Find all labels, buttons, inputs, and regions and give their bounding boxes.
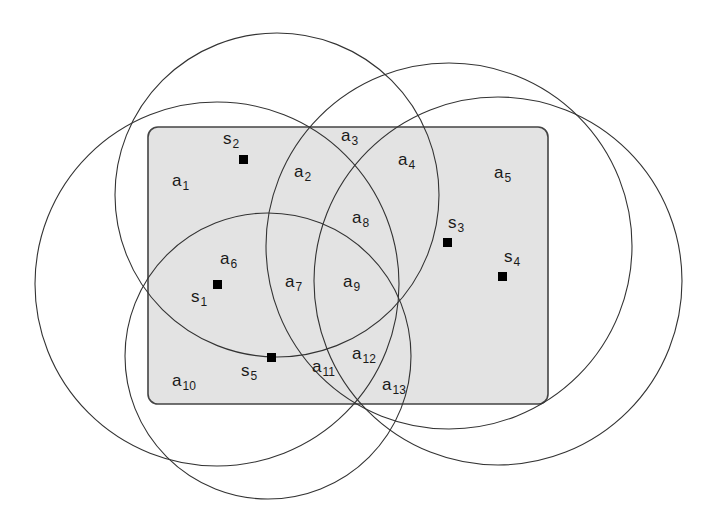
area-label-subscript: 2 [304,170,311,184]
area-label-base: a [172,171,181,190]
area-label-base: a [382,375,391,394]
area-label-base: a [352,208,361,227]
area-label-subscript: 10 [182,379,195,393]
area-label-subscript: 5 [504,171,511,185]
area-label-base: a [398,150,407,169]
area-label-subscript: 13 [392,383,405,397]
area-label-a8: a8 [352,209,369,229]
sensor-label-base: s [241,361,250,380]
sensor-label-base: s [448,213,457,232]
area-label-subscript: 1 [182,179,189,193]
sensor-label-subscript: 4 [514,255,521,269]
area-label-a2: a2 [294,163,311,183]
sensor-label-subscript: 2 [233,137,240,151]
area-label-base: a [220,249,229,268]
area-label-base: a [494,163,503,182]
area-label-subscript: 6 [230,257,237,271]
sensor-marker-s2 [239,155,248,164]
area-label-subscript: 7 [295,280,302,294]
area-label-a4: a4 [398,151,415,171]
area-label-base: a [285,272,294,291]
sensor-label-base: s [223,129,232,148]
sensor-marker-s1 [213,280,222,289]
area-label-subscript: 9 [353,280,360,294]
sensor-marker-s3 [443,238,452,247]
sensor-label-subscript: 3 [458,221,465,235]
area-label-a5: a5 [494,164,511,184]
area-label-base: a [352,344,361,363]
sensor-label-base: s [191,287,200,306]
monitored-region [148,127,548,404]
sensor-label-s5: s5 [241,362,257,382]
area-label-a6: a6 [220,250,237,270]
sensor-marker-s5 [267,353,276,362]
area-label-a12: a12 [352,345,376,365]
coverage-diagram [0,0,710,527]
area-label-subscript: 3 [351,134,358,148]
area-label-subscript: 12 [362,352,375,366]
area-label-a11: a11 [312,358,335,378]
sensor-label-subscript: 1 [201,295,208,309]
area-label-a13: a13 [382,376,406,396]
area-label-a9: a9 [343,273,360,293]
sensor-label-s4: s4 [504,248,520,268]
area-label-base: a [312,357,321,376]
sensor-label-subscript: 5 [251,369,258,383]
area-label-base: a [343,272,352,291]
area-label-a1: a1 [172,172,189,192]
area-label-subscript: 4 [408,158,415,172]
area-label-subscript: 8 [362,216,369,230]
area-label-base: a [294,162,303,181]
area-label-a10: a10 [172,372,196,392]
area-label-a7: a7 [285,273,302,293]
sensor-marker-s4 [498,272,507,281]
area-label-base: a [341,126,350,145]
area-label-subscript: 11 [322,365,334,379]
sensor-label-s2: s2 [223,130,239,150]
area-label-base: a [172,371,181,390]
sensor-label-base: s [504,247,513,266]
sensor-label-s3: s3 [448,214,464,234]
area-label-a3: a3 [341,127,358,147]
sensor-label-s1: s1 [191,288,207,308]
